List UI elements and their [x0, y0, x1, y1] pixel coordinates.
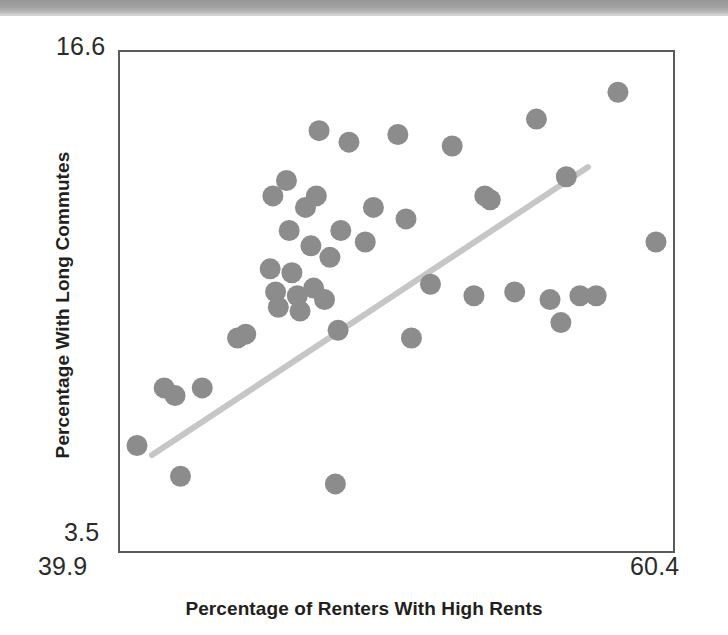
data-point	[556, 166, 577, 187]
data-point	[306, 185, 327, 206]
data-point	[192, 377, 213, 398]
data-point	[276, 170, 297, 191]
data-point	[330, 220, 351, 241]
data-point	[387, 124, 408, 145]
x-axis-title: Percentage of Renters With High Rents	[0, 598, 728, 620]
data-point	[281, 262, 302, 283]
plot-area	[118, 50, 675, 553]
data-point	[363, 197, 384, 218]
data-point	[170, 466, 191, 487]
data-point	[396, 208, 417, 229]
data-point	[309, 120, 330, 141]
data-point	[328, 320, 349, 341]
data-point	[526, 109, 547, 130]
y-axis-title: Percentage With Long Commutes	[52, 55, 74, 555]
data-point	[279, 220, 300, 241]
data-point	[420, 274, 441, 295]
data-point	[586, 285, 607, 306]
scatter-plot-canvas	[118, 50, 675, 553]
data-point	[463, 285, 484, 306]
data-point	[127, 435, 148, 456]
data-point	[319, 247, 340, 268]
data-point	[504, 281, 525, 302]
data-point	[235, 324, 256, 345]
data-point	[442, 135, 463, 156]
data-point	[550, 312, 571, 333]
x-axis-max-tick-label: 60.4	[630, 552, 679, 581]
data-point	[355, 231, 376, 252]
data-point	[338, 132, 359, 153]
data-point	[268, 297, 289, 318]
data-point	[325, 473, 346, 494]
scatter-chart-figure: 16.6 3.5 39.9 60.4 Percentage of Renters…	[0, 0, 728, 635]
data-point	[401, 327, 422, 348]
data-point	[165, 385, 186, 406]
data-point	[480, 189, 501, 210]
data-point	[290, 301, 311, 322]
data-point	[540, 289, 561, 310]
data-point	[645, 231, 666, 252]
data-points-group	[127, 82, 667, 495]
data-point	[300, 235, 321, 256]
x-axis-min-tick-label: 39.9	[38, 552, 87, 581]
data-point	[314, 289, 335, 310]
data-point	[607, 82, 628, 103]
data-point	[260, 258, 281, 279]
